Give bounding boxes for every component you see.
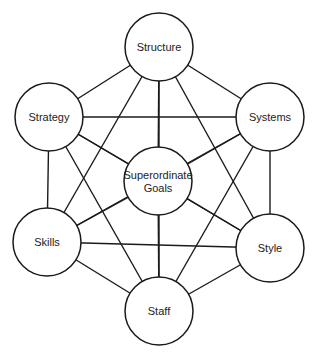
node-label: Staff (148, 305, 171, 317)
node-style: Style (236, 214, 304, 282)
node-label: Structure (137, 41, 182, 53)
node-label: Strategy (29, 111, 70, 123)
node-label: Style (258, 242, 282, 254)
mckinsey-7s-diagram: StructureStrategySystemsSuperordinateGoa… (0, 0, 317, 358)
node-label: Systems (249, 111, 292, 123)
node-superordinate-goals: SuperordinateGoals (123, 147, 192, 215)
node-label: Goals (144, 182, 173, 194)
node-label: Skills (34, 236, 60, 248)
node-systems: Systems (236, 83, 304, 151)
node-skills: Skills (13, 208, 81, 276)
nodes: StructureStrategySystemsSuperordinateGoa… (13, 13, 304, 345)
node-strategy: Strategy (15, 83, 83, 151)
node-label: Superordinate (123, 169, 192, 181)
node-structure: Structure (125, 13, 193, 81)
node-staff: Staff (125, 277, 193, 345)
